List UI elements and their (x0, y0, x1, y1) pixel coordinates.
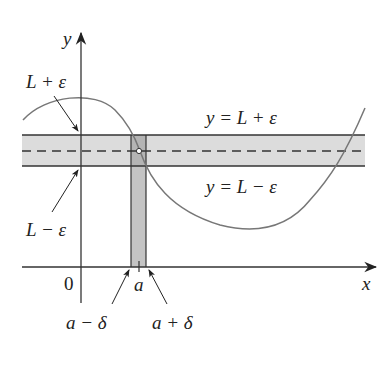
a-minus-delta-pointer (112, 270, 129, 304)
a-plus-delta-pointer (149, 270, 167, 304)
x-axis-label: x (361, 273, 371, 294)
y-axis-label: y (61, 28, 72, 49)
a-plus-delta-label: a + δ (152, 312, 194, 333)
l-minus-epsilon-label: L − ε (25, 219, 67, 240)
a-minus-delta-label: a − δ (66, 312, 108, 333)
lower-line-equation: y = L − ε (204, 176, 277, 197)
a-label: a (134, 274, 144, 295)
limit-point (136, 148, 141, 153)
epsilon-delta-diagram: y x 0 L + ε L − ε y = L + ε y = L − ε a … (0, 0, 383, 367)
l-plus-epsilon-pointer (54, 96, 78, 131)
upper-line-equation: y = L + ε (204, 107, 277, 128)
l-minus-epsilon-pointer (52, 170, 78, 212)
origin-label: 0 (64, 273, 74, 294)
l-plus-epsilon-label: L + ε (25, 71, 67, 92)
